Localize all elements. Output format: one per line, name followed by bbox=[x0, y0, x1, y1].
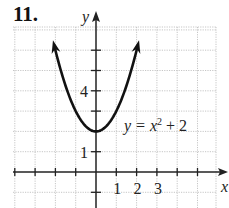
problem-number: 11. bbox=[13, 2, 38, 27]
y-axis-label: y bbox=[80, 8, 90, 26]
labels: yx12314y = x2 + 2 bbox=[80, 8, 228, 197]
graph-figure: 11. yx12314y = x2 + 2 bbox=[0, 0, 229, 208]
x-axis-label: x bbox=[220, 178, 228, 195]
axes bbox=[13, 11, 228, 208]
x-tick-label: 1 bbox=[113, 180, 121, 197]
y-tick-label: 1 bbox=[80, 144, 88, 161]
y-tick-label: 4 bbox=[80, 83, 88, 100]
coordinate-plane: yx12314y = x2 + 2 bbox=[0, 0, 229, 208]
x-tick-label: 2 bbox=[134, 180, 142, 197]
x-tick-label: 3 bbox=[154, 180, 162, 197]
equation-label: y = x2 + 2 bbox=[122, 116, 187, 135]
